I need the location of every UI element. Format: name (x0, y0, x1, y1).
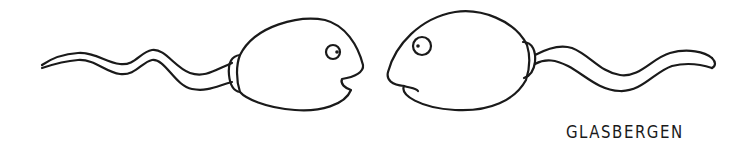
right-sperm-tail-tip (712, 58, 715, 68)
right-sperm-head (388, 11, 530, 110)
left-sperm-head (237, 19, 363, 111)
right-sperm-eye (413, 37, 431, 55)
right-sperm-pupil (416, 44, 420, 48)
right-sperm (388, 11, 715, 110)
right-sperm-mouth (404, 86, 418, 91)
left-sperm-pupil (335, 50, 339, 54)
left-sperm (42, 19, 363, 111)
left-sperm-tail (42, 50, 232, 75)
right-sperm-tail (535, 46, 712, 75)
artist-signature: GLASBERGEN (566, 122, 684, 143)
